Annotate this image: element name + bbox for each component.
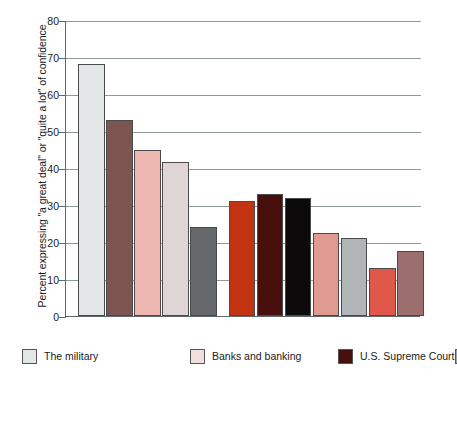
- gridline: [66, 58, 421, 59]
- bar: [257, 194, 284, 316]
- legend-item-label: U.S. Supreme Court: [360, 351, 455, 362]
- y-axis-tick: [59, 206, 66, 207]
- chart-legend: The militaryBanks and bankingU.S. Suprem…: [22, 345, 447, 437]
- y-axis-tick: [59, 317, 66, 318]
- y-axis-tick-label: 20: [19, 238, 59, 249]
- legend-swatch-icon: [338, 349, 353, 364]
- y-axis-tick: [59, 95, 66, 96]
- bar: [313, 233, 340, 316]
- legend-item[interactable]: U.S. Supreme Court: [338, 345, 455, 367]
- bar: [229, 201, 256, 316]
- bar: [369, 268, 396, 316]
- legend-swatch-icon: [190, 349, 205, 364]
- y-axis-tick-label: 80: [19, 16, 59, 27]
- confidence-bar-chart: Percent expressing "a great deal" or "qu…: [0, 0, 457, 446]
- y-axis-tick: [59, 169, 66, 170]
- y-axis-tick: [59, 280, 66, 281]
- bar: [162, 162, 189, 316]
- bar: [106, 120, 133, 316]
- legend-item-label: The military: [44, 351, 98, 362]
- y-axis-tick-label: 40: [19, 164, 59, 175]
- bar: [341, 238, 368, 316]
- y-axis-tick-label: 10: [19, 275, 59, 286]
- legend-item[interactable]: Banks and banking: [190, 345, 338, 367]
- y-axis-tick-labels: 80706050403020100: [15, 21, 59, 317]
- y-axis-tick: [59, 243, 66, 244]
- bar: [397, 251, 424, 316]
- gridline: [66, 21, 421, 22]
- y-axis-tick-label: 70: [19, 53, 59, 64]
- y-axis-tick-label: 50: [19, 127, 59, 138]
- legend-item[interactable]: The military: [22, 345, 190, 367]
- bar: [285, 198, 312, 316]
- y-axis-tick-label: 30: [19, 201, 59, 212]
- bar: [134, 150, 161, 317]
- bar: [190, 227, 217, 316]
- y-axis-tick: [59, 132, 66, 133]
- y-axis-tick-label: 0: [19, 312, 59, 323]
- legend-swatch-icon: [22, 349, 37, 364]
- y-axis-tick: [59, 58, 66, 59]
- bar: [78, 64, 105, 316]
- plot-area: [65, 21, 420, 317]
- y-axis-tick: [59, 21, 66, 22]
- legend-item-label: Banks and banking: [212, 351, 301, 362]
- y-axis-tick-label: 60: [19, 90, 59, 101]
- gridline: [66, 95, 421, 96]
